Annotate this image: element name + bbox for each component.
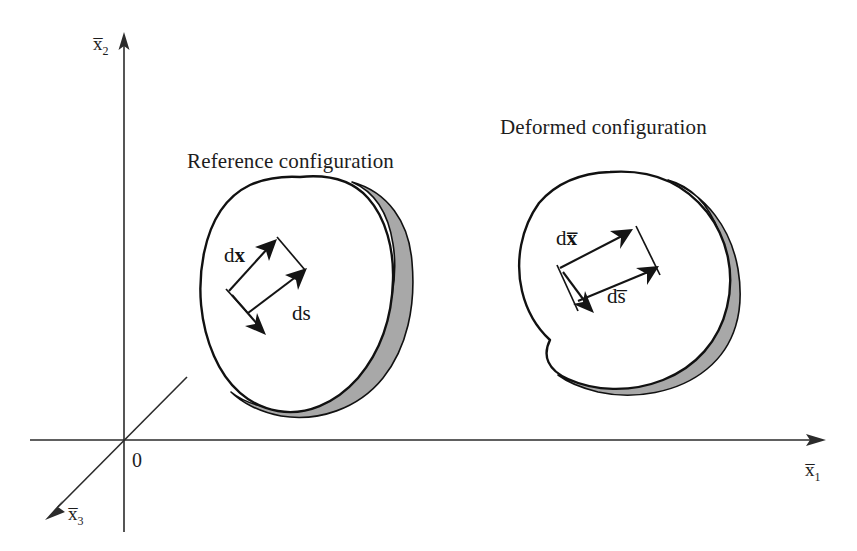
- axis-x3-line: [58, 377, 187, 507]
- deformed-dxbar-label: dx̅: [556, 226, 578, 250]
- axis-x3-label: x̅3: [68, 503, 84, 528]
- axis-x2-symbol: x̅: [93, 33, 103, 54]
- deformed-dsbar-label: ds̅: [607, 284, 628, 308]
- axis-x1-label: x̅1: [805, 459, 821, 484]
- svg-text:x̅3: x̅3: [68, 503, 84, 528]
- axis-x3-symbol: x̅: [68, 503, 78, 524]
- deformed-configuration-group: Deformed configuration dx̅ ds̅: [500, 115, 740, 395]
- deformed-dsbar-prefix: d: [607, 284, 618, 308]
- axis-x2-subscript: 2: [103, 44, 109, 58]
- deformed-body-outline: [519, 172, 730, 389]
- axis-x1: [30, 434, 826, 446]
- deformed-dxbar-prefix: d: [556, 226, 567, 250]
- reference-ds-symbol: s: [303, 301, 311, 325]
- reference-dx-label: dx: [224, 243, 246, 267]
- axis-x2-label: x̅2: [93, 33, 109, 58]
- origin-label: 0: [132, 449, 142, 471]
- reference-dx-prefix: d: [224, 243, 235, 267]
- reference-ds-label: ds: [292, 301, 311, 325]
- axis-x1-subscript: 1: [815, 470, 821, 484]
- svg-text:x̅1: x̅1: [805, 459, 821, 484]
- axis-x3-subscript: 3: [78, 514, 84, 528]
- svg-text:x̅2: x̅2: [93, 33, 109, 58]
- deformed-dxbar-symbol: x̅: [566, 226, 578, 250]
- deformed-configuration-title: Deformed configuration: [500, 115, 707, 139]
- axis-x3: [45, 377, 187, 520]
- diagram-canvas: 0 x̅2 x̅1 x̅3: [0, 0, 857, 551]
- axis-x2: [119, 32, 130, 532]
- figure-root: 0 x̅2 x̅1 x̅3: [0, 0, 857, 551]
- reference-dx-symbol: x: [235, 243, 246, 267]
- reference-ds-prefix: d: [292, 301, 303, 325]
- reference-configuration-group: Reference configuration dx ds: [187, 149, 413, 417]
- reference-configuration-title: Reference configuration: [187, 149, 394, 173]
- axis-x1-symbol: x̅: [805, 459, 815, 480]
